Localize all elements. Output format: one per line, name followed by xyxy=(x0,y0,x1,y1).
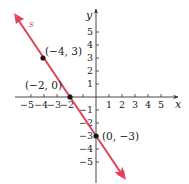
y-tick-label: −5 xyxy=(79,156,93,167)
x-tick-label: 3 xyxy=(132,99,138,110)
point-label: (−2, 0) xyxy=(25,79,62,91)
x-tick-label: −3 xyxy=(47,99,61,110)
point-neg2-0 xyxy=(67,94,72,99)
point-0-neg3 xyxy=(93,133,98,138)
point-label: (0, −3) xyxy=(102,130,139,142)
y-tick-label: −4 xyxy=(79,143,93,154)
line-name-label: s xyxy=(29,19,34,29)
point-label: (−4, 3) xyxy=(45,45,82,57)
y-tick-label: −3 xyxy=(79,130,93,141)
x-tick-label: 2 xyxy=(119,99,125,110)
y-tick-label: 2 xyxy=(87,65,93,76)
y-tick-label: 5 xyxy=(87,26,93,37)
x-tick-label: 1 xyxy=(106,99,112,110)
x-tick-label: −5 xyxy=(20,99,34,110)
x-axis-label: x xyxy=(175,98,182,111)
y-axis-label: y xyxy=(85,9,93,22)
y-tick-label: 3 xyxy=(87,52,93,63)
x-tick-label: 4 xyxy=(145,99,151,110)
y-tick-label: 1 xyxy=(87,78,93,89)
x-tick-label: 5 xyxy=(158,99,164,110)
x-tick-label: −4 xyxy=(34,99,48,110)
y-tick-label: 4 xyxy=(87,39,93,50)
coordinate-plane: −5 −4 −3 −2 1 2 3 4 5 5 4 3 2 1 −1 −2 −3… xyxy=(0,0,189,184)
